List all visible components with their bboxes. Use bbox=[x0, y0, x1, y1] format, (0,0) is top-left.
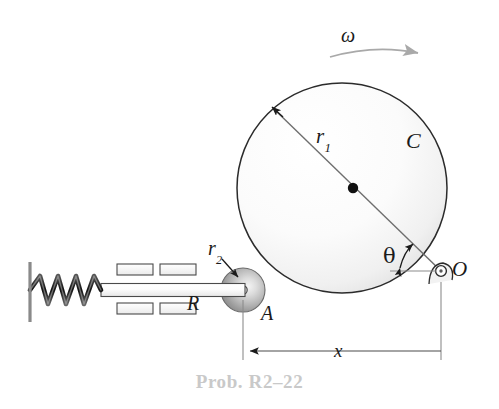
disk-center-point bbox=[348, 183, 358, 193]
label-r1: r1 bbox=[316, 126, 331, 150]
label-omega: ω bbox=[341, 25, 355, 45]
horizontal-rod bbox=[101, 284, 245, 297]
label-rod-r: R bbox=[187, 293, 199, 313]
label-roller-a: A bbox=[261, 303, 273, 323]
label-pin-o: O bbox=[452, 259, 467, 280]
label-theta: θ bbox=[383, 246, 396, 267]
rotating-disk-C bbox=[237, 83, 447, 293]
diagram-canvas bbox=[0, 0, 499, 409]
guide-block-top-right bbox=[160, 264, 196, 275]
label-r2-base: r bbox=[208, 237, 216, 259]
label-r2: r2 bbox=[208, 238, 222, 262]
label-r1-subscript: 1 bbox=[324, 140, 331, 155]
pin-joint-O bbox=[429, 263, 453, 284]
label-r2-subscript: 2 bbox=[216, 253, 222, 267]
figure-caption: Prob. R2–22 bbox=[0, 371, 499, 393]
physics-figure: ω r1 r2 C O A R θ x Prob. R2–22 bbox=[0, 0, 499, 409]
label-disk-c: C bbox=[406, 130, 421, 152]
coil-spring bbox=[30, 276, 101, 304]
label-r1-base: r bbox=[316, 124, 324, 148]
omega-rotation-arrow bbox=[330, 49, 418, 57]
label-distance-x: x bbox=[334, 341, 342, 360]
guide-block-top-left bbox=[117, 264, 153, 275]
guide-block-bottom-left bbox=[117, 303, 153, 314]
